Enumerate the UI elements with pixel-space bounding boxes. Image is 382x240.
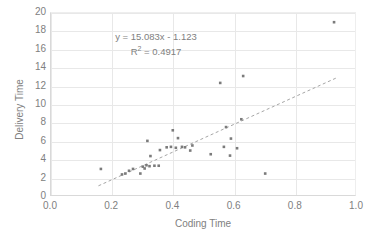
data-point bbox=[333, 21, 336, 24]
data-point bbox=[175, 146, 178, 149]
y-axis-tick-label: 18 bbox=[2, 25, 46, 35]
data-point bbox=[170, 146, 173, 149]
x-axis-tick-label: 0.6 bbox=[214, 201, 254, 211]
data-point bbox=[148, 165, 151, 168]
data-point bbox=[225, 126, 228, 129]
data-point bbox=[189, 149, 192, 152]
data-point bbox=[128, 169, 131, 172]
data-point bbox=[139, 172, 142, 175]
data-point bbox=[143, 167, 146, 170]
data-point bbox=[236, 147, 239, 150]
data-point bbox=[264, 172, 267, 175]
data-point bbox=[223, 146, 226, 149]
y-axis-tick-label: 20 bbox=[2, 7, 46, 17]
x-axis-ticks: 0.00.20.40.60.81.0 bbox=[0, 201, 382, 215]
x-axis-tick-label: 0.8 bbox=[275, 201, 315, 211]
x-axis-tick-label: 1.0 bbox=[336, 201, 376, 211]
x-axis-tick-label: 0.2 bbox=[91, 201, 131, 211]
data-point bbox=[159, 149, 162, 152]
data-point bbox=[124, 172, 127, 175]
data-point bbox=[240, 118, 243, 121]
data-point bbox=[145, 164, 148, 167]
regression-annotation: y = 15.083x - 1.123 R2 = 0.4917 bbox=[96, 31, 216, 58]
x-axis-title: Coding Time bbox=[50, 218, 356, 229]
y-axis-tick-label: 16 bbox=[2, 44, 46, 54]
y-axis-tick-label: 2 bbox=[2, 173, 46, 183]
data-point bbox=[230, 137, 233, 140]
data-point bbox=[184, 146, 187, 149]
data-point bbox=[191, 144, 194, 147]
data-point bbox=[149, 155, 152, 158]
data-point bbox=[177, 137, 180, 140]
x-axis-tick-label: 0.0 bbox=[30, 201, 70, 211]
data-point bbox=[229, 154, 232, 157]
x-axis-tick-label: 0.4 bbox=[152, 201, 192, 211]
data-point bbox=[219, 82, 222, 85]
data-point bbox=[121, 173, 124, 176]
data-point bbox=[153, 164, 156, 167]
data-point bbox=[209, 153, 212, 156]
y-axis-tick-label: 0 bbox=[2, 191, 46, 201]
scatter-chart: 02468101214161820 0.00.20.40.60.81.0 Del… bbox=[0, 0, 382, 240]
r-squared-line: R2 = 0.4917 bbox=[96, 43, 216, 58]
r-squared-prefix: R bbox=[131, 46, 138, 57]
data-point bbox=[157, 164, 160, 167]
data-point bbox=[181, 146, 184, 149]
regression-equation: y = 15.083x - 1.123 bbox=[96, 31, 216, 43]
data-point bbox=[146, 140, 149, 143]
y-axis-title: Delivery Time bbox=[14, 60, 25, 160]
data-point bbox=[132, 168, 135, 171]
data-point bbox=[242, 75, 245, 78]
data-point bbox=[165, 146, 168, 149]
data-point bbox=[171, 129, 174, 132]
data-point bbox=[100, 168, 103, 171]
r-squared-value: = 0.4917 bbox=[141, 46, 181, 57]
